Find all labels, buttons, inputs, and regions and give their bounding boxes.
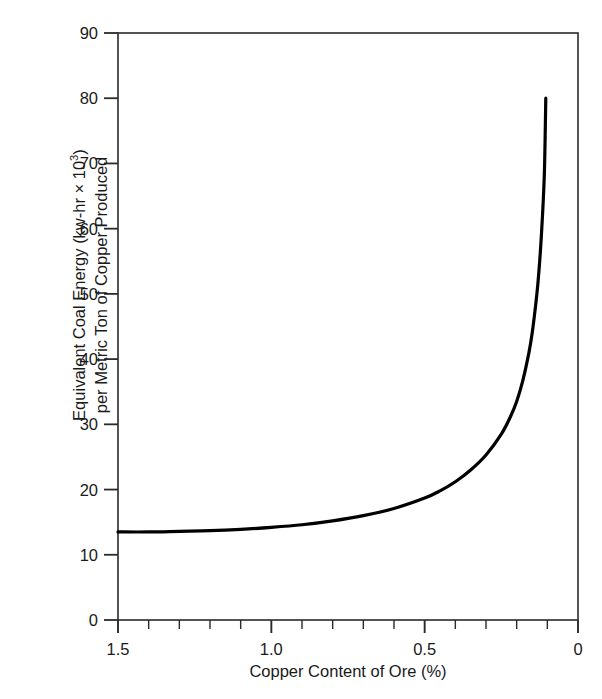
x-tick-label: 1.5 xyxy=(107,640,130,659)
y-tick-label: 60 xyxy=(60,219,98,238)
y-tick-label: 10 xyxy=(60,545,98,564)
y-tick-label: 80 xyxy=(60,89,98,108)
x-axis-title: Copper Content of Ore (%) xyxy=(118,662,578,681)
y-tick-label: 0 xyxy=(60,611,98,630)
x-tick-label: 0.5 xyxy=(413,640,436,659)
y-tick-label: 40 xyxy=(60,350,98,369)
x-tick-label: 1.0 xyxy=(260,640,283,659)
y-axis-ticks xyxy=(104,33,118,620)
chart-figure: Equivalent Coal Energy (kw-hr × 103) per… xyxy=(0,0,602,699)
y-tick-label: 70 xyxy=(60,154,98,173)
x-tick-label: 0 xyxy=(573,640,582,659)
y-tick-label: 20 xyxy=(60,480,98,499)
y-tick-label: 50 xyxy=(60,284,98,303)
y-tick-label: 30 xyxy=(60,415,98,434)
y-tick-label: 90 xyxy=(60,24,98,43)
